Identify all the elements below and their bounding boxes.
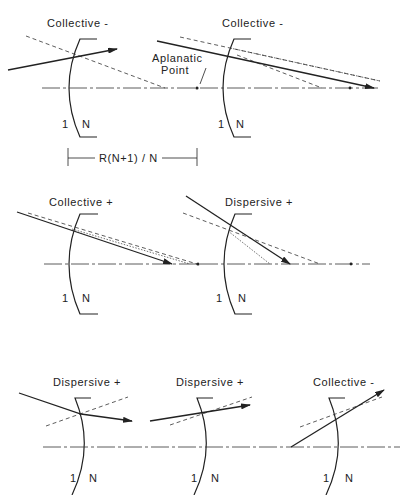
refracted-ray bbox=[17, 212, 172, 264]
panel-3: Collective + 1 N bbox=[17, 196, 200, 314]
panel-7: Collective - 1 N bbox=[291, 376, 384, 495]
index-label-right: N bbox=[82, 118, 91, 130]
index-label-left: 1 bbox=[216, 292, 223, 304]
svg-text:Point: Point bbox=[161, 64, 189, 76]
index-label-left: 1 bbox=[62, 118, 69, 130]
panel-title: Collective + bbox=[49, 196, 113, 208]
aplanatic-point bbox=[195, 86, 198, 89]
index-label-right: N bbox=[82, 292, 91, 304]
panel-title: Collective - bbox=[47, 17, 109, 29]
panel-4: Dispersive + 1 N bbox=[183, 196, 370, 314]
index-label-right: N bbox=[345, 472, 354, 484]
aplanatic-point bbox=[196, 262, 199, 265]
dashed-ray bbox=[300, 397, 382, 427]
index-label-right: N bbox=[238, 292, 247, 304]
aplanatic-point-annotation: Aplanatic Point bbox=[152, 52, 206, 90]
svg-text:Aplanatic: Aplanatic bbox=[152, 52, 203, 64]
refracted-ray bbox=[19, 393, 132, 421]
panel-title: Collective - bbox=[313, 376, 375, 388]
panel-title: Dispersive + bbox=[225, 196, 293, 208]
panel-title: Collective - bbox=[222, 17, 284, 29]
optics-diagram: Collective - 1 N Aplanatic Point R(N+1) … bbox=[0, 0, 403, 495]
dashed-ray-2 bbox=[237, 55, 322, 88]
index-label-left: 1 bbox=[62, 292, 69, 304]
index-label-left: 1 bbox=[191, 472, 198, 484]
index-label-right: N bbox=[236, 118, 245, 130]
index-label-left: 1 bbox=[218, 118, 225, 130]
panel-2: Collective - 1 N bbox=[157, 17, 380, 137]
dimension-line: R(N+1) / N bbox=[68, 148, 197, 166]
panel-5: Dispersive + 1 N bbox=[19, 376, 400, 495]
dashed-ray bbox=[46, 397, 128, 426]
refracted-ray bbox=[8, 49, 117, 70]
panel-6: Dispersive + 1 N bbox=[150, 376, 252, 495]
panel-title: Dispersive + bbox=[53, 376, 121, 388]
focal-point bbox=[349, 87, 352, 90]
panel-title: Dispersive + bbox=[176, 376, 244, 388]
svg-text:R(N+1) / N: R(N+1) / N bbox=[99, 152, 158, 164]
index-label-left: 1 bbox=[70, 472, 77, 484]
pointer-line bbox=[200, 68, 206, 84]
dotted-ray bbox=[72, 229, 190, 264]
index-label-right: N bbox=[89, 472, 98, 484]
focal-point bbox=[350, 263, 353, 266]
dashed-ray bbox=[28, 213, 197, 264]
index-label-right: N bbox=[211, 472, 220, 484]
panel-1: Collective - 1 N bbox=[8, 17, 195, 137]
refracted-ray bbox=[157, 41, 374, 88]
index-label-left: 1 bbox=[323, 472, 330, 484]
